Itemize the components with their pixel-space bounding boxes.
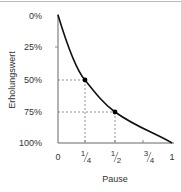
recovery-curve <box>58 15 172 143</box>
guide-lines <box>58 80 115 143</box>
y-tick-label: 0% <box>29 11 42 21</box>
data-point <box>83 78 88 83</box>
recovery-chart: 0% 25% 50% 75% 100% Erholungswert 0 1 4 … <box>0 0 181 192</box>
data-point <box>113 110 118 115</box>
y-tick-label: 50% <box>24 75 42 85</box>
x-tick-label-num: 3 <box>144 149 149 158</box>
x-tick-label-num: 1 <box>111 149 116 158</box>
y-tick-label: 100% <box>19 138 42 148</box>
x-axis-title: Pause <box>102 174 128 184</box>
x-tick-label-den: 4 <box>87 156 92 165</box>
x-tick-label: 1 <box>169 152 174 162</box>
x-tick-label-num: 1 <box>81 149 86 158</box>
y-tick-label: 75% <box>24 107 42 117</box>
y-axis-title: Erholungswert <box>7 51 17 109</box>
x-tick-label: 0 <box>55 152 60 162</box>
y-tick-label: 25% <box>24 42 42 52</box>
x-tick-label-den: 4 <box>150 156 155 165</box>
x-tick-label-den: 2 <box>117 156 122 165</box>
